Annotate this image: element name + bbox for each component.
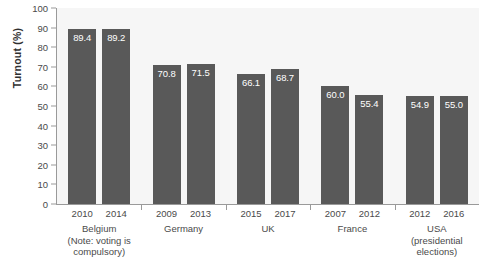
x-group-label: USA(presidentialelections): [395, 223, 479, 258]
bar-value-label: 70.8: [153, 68, 181, 79]
x-group-separator-tick: [141, 204, 142, 210]
x-group-label-line: Germany: [141, 223, 225, 235]
x-group-label: Germany: [141, 223, 225, 235]
x-year-label: 2015: [237, 208, 265, 219]
x-year-label: 2014: [102, 208, 130, 219]
bar-value-label: 71.5: [187, 67, 215, 78]
bar-value-label: 89.2: [102, 32, 130, 43]
bar: 89.4: [68, 29, 96, 204]
x-group-separator-tick: [395, 204, 396, 210]
bar-value-label: 54.9: [406, 99, 434, 110]
x-group-label-line: (Note: voting is: [57, 235, 141, 247]
x-year-label: 2010: [68, 208, 96, 219]
x-group-label-line: France: [310, 223, 394, 235]
y-tick-label: 100: [32, 3, 48, 14]
bar: 66.1: [237, 74, 265, 204]
y-tick-label: 10: [37, 179, 48, 190]
x-group-label: Belgium(Note: voting iscompulsory): [57, 223, 141, 258]
x-group-separator-tick: [310, 204, 311, 210]
x-group-label-line: (presidential: [395, 235, 479, 247]
plot-area: 89.489.270.871.566.168.760.055.454.955.0: [57, 8, 479, 204]
bar-value-label: 66.1: [237, 77, 265, 88]
bar: 55.0: [440, 96, 468, 204]
x-year-label: 2016: [440, 208, 468, 219]
x-group-label-line: Belgium: [57, 223, 141, 235]
bar: 89.2: [102, 29, 130, 204]
y-tick-label: 90: [37, 22, 48, 33]
x-axis-line: [56, 204, 479, 205]
bar-value-label: 55.0: [440, 99, 468, 110]
x-year-label: 2012: [406, 208, 434, 219]
y-tick-label: 0: [43, 199, 48, 210]
x-group-label-line: USA: [395, 223, 479, 235]
bar: 71.5: [187, 64, 215, 204]
x-group-label-line: elections): [395, 246, 479, 258]
x-year-label: 2009: [153, 208, 181, 219]
x-group-label: UK: [226, 223, 310, 235]
y-tick-label: 20: [37, 159, 48, 170]
x-group-label: France: [310, 223, 394, 235]
bar: 55.4: [355, 95, 383, 204]
bar: 60.0: [321, 86, 349, 204]
y-tick-label: 80: [37, 42, 48, 53]
bar-value-label: 55.4: [355, 98, 383, 109]
x-group-label-line: compulsory): [57, 246, 141, 258]
x-year-label: 2017: [271, 208, 299, 219]
bar: 54.9: [406, 96, 434, 204]
x-year-label: 2013: [187, 208, 215, 219]
x-year-label: 2012: [355, 208, 383, 219]
bar: 70.8: [153, 65, 181, 204]
y-tick-label: 50: [37, 101, 48, 112]
y-axis: 0102030405060708090100: [20, 8, 56, 204]
y-tick-label: 60: [37, 81, 48, 92]
bar-value-label: 68.7: [271, 72, 299, 83]
x-axis-labels: 20102014Belgium(Note: voting iscompulsor…: [57, 208, 479, 270]
bar-value-label: 60.0: [321, 89, 349, 100]
x-year-label: 2007: [321, 208, 349, 219]
y-tick-label: 40: [37, 120, 48, 131]
y-tick-label: 30: [37, 140, 48, 151]
x-group-separator-tick: [226, 204, 227, 210]
bar-value-label: 89.4: [68, 32, 96, 43]
y-tick-label: 70: [37, 61, 48, 72]
turnout-bar-chart: Turnout (%) 0102030405060708090100 89.48…: [0, 0, 489, 272]
bar: 68.7: [271, 69, 299, 204]
x-group-label-line: UK: [226, 223, 310, 235]
